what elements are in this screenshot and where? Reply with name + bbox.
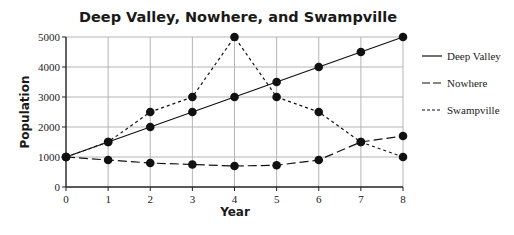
legend-label: Deep Valley <box>447 50 501 62</box>
data-point <box>230 33 239 42</box>
legend: Deep ValleyNowhereSwampville <box>422 50 501 116</box>
data-point <box>272 93 281 102</box>
data-point <box>314 108 323 117</box>
x-axis-label: Year <box>219 205 250 219</box>
data-point <box>399 132 408 141</box>
x-axis-ticks: 012345678 <box>63 187 406 205</box>
x-tick-label: 1 <box>105 193 111 205</box>
data-point <box>230 93 239 102</box>
x-tick-label: 2 <box>148 193 154 205</box>
y-axis-ticks: 010002000300040005000 <box>38 31 66 193</box>
legend-label: Swampville <box>447 104 500 116</box>
data-point <box>146 159 155 168</box>
data-point <box>357 138 366 147</box>
legend-label: Nowhere <box>447 77 487 89</box>
x-tick-label: 5 <box>274 193 280 205</box>
data-point <box>272 161 281 170</box>
data-point <box>104 156 113 165</box>
data-point <box>188 108 197 117</box>
chart-title: Deep Valley, Nowhere, and Swampville <box>79 9 397 25</box>
data-point <box>357 48 366 57</box>
data-point <box>399 33 408 42</box>
data-point <box>272 78 281 87</box>
data-point <box>146 123 155 132</box>
y-tick-label: 2000 <box>38 121 61 133</box>
data-point <box>399 153 408 162</box>
x-tick-label: 6 <box>316 193 322 205</box>
y-tick-label: 3000 <box>38 91 61 103</box>
x-tick-label: 4 <box>232 193 238 205</box>
data-point <box>314 156 323 165</box>
y-tick-label: 5000 <box>38 31 61 43</box>
data-point <box>62 153 71 162</box>
y-axis-label: Population <box>18 75 32 148</box>
y-tick-label: 0 <box>55 181 61 193</box>
line-chart: Deep Valley, Nowhere, and Swampville 010… <box>0 0 514 235</box>
data-point <box>188 160 197 169</box>
data-point <box>314 63 323 72</box>
x-tick-label: 0 <box>63 193 69 205</box>
data-point <box>230 162 239 171</box>
y-tick-label: 4000 <box>38 61 61 73</box>
data-point <box>146 108 155 117</box>
data-point <box>188 93 197 102</box>
x-tick-label: 7 <box>358 193 364 205</box>
x-tick-label: 3 <box>190 193 196 205</box>
data-point <box>104 138 113 147</box>
x-tick-label: 8 <box>400 193 406 205</box>
y-tick-label: 1000 <box>38 151 61 163</box>
